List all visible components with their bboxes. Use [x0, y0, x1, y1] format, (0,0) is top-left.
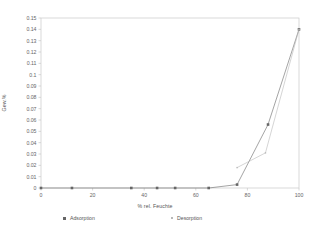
svg-text:0.15: 0.15	[26, 15, 36, 21]
legend-label-desorption: Desorption	[177, 215, 202, 221]
svg-text:0.13: 0.13	[26, 38, 36, 44]
svg-text:0: 0	[34, 185, 37, 191]
legend-label-adsorption: Adsorption	[70, 215, 95, 221]
svg-text:20: 20	[90, 192, 96, 198]
svg-text:0.1: 0.1	[29, 72, 36, 78]
legend-marker-adsorption-icon	[63, 217, 66, 220]
svg-text:40: 40	[141, 192, 147, 198]
svg-text:0.09: 0.09	[26, 83, 36, 89]
svg-text:0.11: 0.11	[27, 60, 37, 66]
svg-text:60: 60	[193, 192, 199, 198]
svg-text:0.07: 0.07	[26, 106, 36, 112]
svg-text:0.04: 0.04	[26, 140, 36, 146]
legend-item-adsorption: Adsorption	[63, 215, 171, 221]
svg-text:0: 0	[40, 192, 43, 198]
svg-text:0.02: 0.02	[26, 162, 36, 168]
legend-item-desorption: Desorption	[171, 215, 279, 221]
legend-marker-desorption-icon	[171, 217, 173, 219]
svg-text:0.08: 0.08	[26, 94, 36, 100]
x-axis-title: % rel. Feuchte	[0, 203, 310, 209]
svg-text:0.06: 0.06	[26, 117, 36, 123]
svg-text:0.01: 0.01	[26, 174, 36, 180]
svg-text:0.05: 0.05	[26, 128, 36, 134]
chart-container: 00.010.020.030.040.050.060.070.080.090.1…	[0, 0, 310, 232]
svg-text:100: 100	[295, 192, 304, 198]
svg-text:0.12: 0.12	[26, 49, 36, 55]
svg-text:80: 80	[245, 192, 251, 198]
svg-text:0.14: 0.14	[26, 26, 36, 32]
svg-text:0.03: 0.03	[26, 151, 36, 157]
chart-legend: Adsorption Desorption	[40, 212, 302, 224]
y-axis-title: Gew.%	[1, 83, 7, 123]
chart-plot-area: 00.010.020.030.040.050.060.070.080.090.1…	[0, 0, 310, 232]
